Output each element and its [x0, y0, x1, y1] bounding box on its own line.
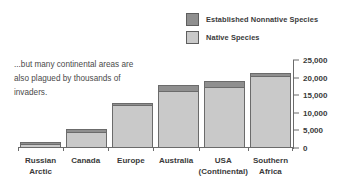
y-tick-mark — [293, 95, 299, 96]
bar-segment-native — [159, 92, 198, 147]
x-axis-label: Australia — [153, 156, 198, 167]
x-axis-label-line1: Australia — [159, 156, 193, 165]
bar-slot — [201, 60, 247, 147]
x-axis-label: Europe — [108, 156, 153, 167]
stacked-bar[interactable] — [112, 103, 153, 147]
stacked-bar[interactable] — [158, 85, 199, 147]
bar-slot — [64, 60, 110, 147]
x-tick-mark — [63, 147, 64, 151]
plot-area — [18, 60, 293, 148]
x-axis-label-line1: Southern — [253, 156, 288, 165]
bar-segment-native — [67, 133, 106, 147]
x-axis-label: USA(Continental) — [199, 156, 248, 177]
y-axis-tick: 20,000 — [293, 73, 327, 82]
x-tick-mark — [248, 147, 249, 151]
x-axis-category: Australia — [153, 150, 198, 186]
y-tick-label: 25,000 — [303, 56, 327, 65]
y-tick-label: 20,000 — [303, 73, 327, 82]
x-tick-mark — [292, 147, 293, 151]
legend-label-native: Native Species — [206, 33, 260, 42]
bar-slot — [155, 60, 201, 147]
y-axis-tick: 5,000 — [293, 126, 323, 135]
x-axis-label-line1: USA — [215, 156, 232, 165]
x-axis-label-line2: (Continental) — [199, 167, 248, 178]
stacked-bar[interactable] — [66, 129, 107, 147]
legend-swatch-nonnative-icon — [186, 13, 199, 26]
y-tick-label: 15,000 — [303, 91, 327, 100]
stacked-bar[interactable] — [250, 73, 291, 147]
x-axis-label: Canada — [63, 156, 108, 167]
bar-slot — [18, 60, 64, 147]
legend-item-nonnative: Established Nonnative Species — [186, 13, 318, 26]
stacked-bar[interactable] — [204, 81, 245, 147]
x-axis-category: Europe — [108, 150, 153, 186]
bar-slot — [110, 60, 156, 147]
bar-segment-native — [205, 88, 244, 147]
y-tick-label: 10,000 — [303, 108, 327, 117]
legend-label-nonnative: Established Nonnative Species — [206, 15, 318, 24]
x-axis-category: USA(Continental) — [199, 150, 248, 186]
x-axis-label-line1: Canada — [71, 156, 100, 165]
x-axis-label: SouthernAfrica — [248, 156, 293, 177]
x-axis-label-line2: Arctic — [18, 167, 63, 178]
chart-legend: Established Nonnative Species Native Spe… — [186, 13, 318, 49]
bar-segment-native — [251, 77, 290, 147]
y-tick-mark — [293, 112, 299, 113]
legend-item-native: Native Species — [186, 31, 318, 44]
y-tick-mark — [293, 148, 299, 149]
x-axis-category: RussianArctic — [18, 150, 63, 186]
bar-slot — [247, 60, 293, 147]
x-tick-mark — [108, 147, 109, 151]
y-axis: 25,00020,00015,00010,0005,0000 — [293, 60, 345, 149]
y-axis-tick: 10,000 — [293, 108, 327, 117]
y-axis-tick: 25,000 — [293, 56, 327, 65]
x-axis-label-line2: Africa — [248, 167, 293, 178]
y-tick-label: 0 — [303, 144, 307, 153]
x-tick-mark — [153, 147, 154, 151]
x-axis-label-line1: Russian — [25, 156, 56, 165]
bar-group — [18, 60, 293, 147]
x-tick-mark — [199, 147, 200, 151]
bar-segment-native — [113, 106, 152, 147]
y-axis-tick: 15,000 — [293, 91, 327, 100]
x-axis-line — [18, 147, 293, 148]
x-axis-label: RussianArctic — [18, 156, 63, 177]
x-axis-label-line1: Europe — [117, 156, 145, 165]
x-tick-mark — [18, 147, 19, 151]
y-tick-label: 5,000 — [303, 126, 323, 135]
y-tick-mark — [293, 77, 299, 78]
x-axis-category: SouthernAfrica — [248, 150, 293, 186]
chart-page: Established Nonnative Species Native Spe… — [0, 0, 345, 189]
legend-swatch-native-icon — [186, 31, 199, 44]
x-axis-category: Canada — [63, 150, 108, 186]
y-tick-mark — [293, 130, 299, 131]
y-tick-mark — [293, 60, 299, 61]
x-axis: RussianArcticCanadaEuropeAustraliaUSA(Co… — [18, 150, 293, 186]
y-axis-tick: 0 — [293, 144, 307, 153]
